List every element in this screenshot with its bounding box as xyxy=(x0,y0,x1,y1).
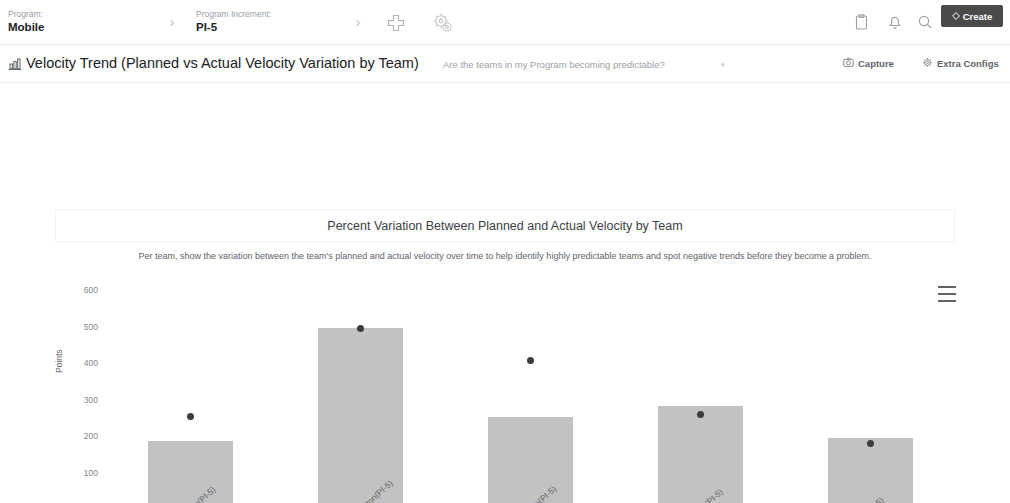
y-axis-tick: 100 xyxy=(62,468,98,478)
create-diamond-icon xyxy=(952,11,960,22)
chart-data-point[interactable] xyxy=(357,325,364,332)
y-axis-tick: 200 xyxy=(62,431,98,441)
breadcrumb-increment-label: Program Increment: xyxy=(196,8,271,20)
search-icon[interactable] xyxy=(915,12,935,32)
breadcrumb-program-increment[interactable]: Program Increment: PI-5 xyxy=(196,8,271,34)
capture-button[interactable]: Capture xyxy=(843,57,894,70)
create-button-label: Create xyxy=(963,11,993,22)
y-axis-tick: 400 xyxy=(62,358,98,368)
chart-bar[interactable] xyxy=(148,441,233,503)
y-axis-tick: 300 xyxy=(62,395,98,405)
create-button[interactable]: Create xyxy=(941,5,1003,27)
chart-bar[interactable] xyxy=(318,328,403,503)
question-dropdown[interactable]: Are the teams in my Program becoming pre… xyxy=(443,55,731,74)
chart-data-point[interactable] xyxy=(697,411,704,418)
breadcrumb-program-value: Mobile xyxy=(8,20,44,34)
extra-configs-label: Extra Configs xyxy=(937,58,999,69)
chevron-down-icon: ▾ xyxy=(721,61,725,69)
y-axis-tick: 500 xyxy=(62,322,98,332)
camera-icon xyxy=(843,57,854,70)
plot-area: Points 6005004003002001000Cowboys(PI-5)W… xyxy=(0,83,1010,503)
plus-icon[interactable] xyxy=(385,12,407,34)
page-header-bar: Velocity Trend (Planned vs Actual Veloci… xyxy=(0,45,1010,83)
gear-icon-settings[interactable] xyxy=(430,10,456,36)
breadcrumb-program[interactable]: Program: Mobile xyxy=(8,8,44,34)
chart-data-point[interactable] xyxy=(867,440,874,447)
clipboard-icon[interactable] xyxy=(851,12,871,32)
chevron-right-icon-1: › xyxy=(166,13,178,31)
bar-chart-icon xyxy=(7,56,23,72)
chevron-right-icon-2: › xyxy=(352,13,364,31)
chart-data-point[interactable] xyxy=(187,413,194,420)
page-title: Velocity Trend (Planned vs Actual Veloci… xyxy=(26,55,419,71)
chart-bar[interactable] xyxy=(828,438,913,503)
breadcrumb-increment-value: PI-5 xyxy=(196,20,271,34)
chart-bar[interactable] xyxy=(658,406,743,503)
question-dropdown-value: Are the teams in my Program becoming pre… xyxy=(443,59,665,70)
top-navigation-bar: Program: Mobile › Program Increment: PI-… xyxy=(0,0,1010,45)
capture-label: Capture xyxy=(858,58,894,69)
chart-container: Percent Variation Between Planned and Ac… xyxy=(0,83,1010,503)
breadcrumb-program-label: Program: xyxy=(8,8,44,20)
y-axis-tick: 600 xyxy=(62,285,98,295)
extra-configs-button[interactable]: Extra Configs xyxy=(922,57,999,70)
gear-icon-extra-configs xyxy=(922,57,933,70)
chart-data-point[interactable] xyxy=(527,357,534,364)
chart-bar[interactable] xyxy=(488,417,573,503)
bell-icon[interactable] xyxy=(885,12,905,32)
